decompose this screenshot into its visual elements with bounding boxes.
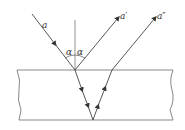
label-reflected: a′: [120, 11, 127, 21]
label-angle-right: α: [77, 47, 83, 57]
incident-ray: [32, 14, 75, 70]
label-angle-left: α: [66, 47, 72, 57]
refracted-ray-up: [93, 70, 112, 120]
refracted-ray-down: [75, 70, 93, 120]
glass-slab: [17, 70, 173, 120]
label-incident: a: [42, 20, 47, 30]
optics-diagram: a a′ a″ α α: [0, 0, 185, 130]
diagram: a a′ a″ α α: [0, 0, 185, 130]
reflected-ray: [75, 18, 118, 70]
emergent-ray: [112, 18, 155, 70]
label-emergent: a″: [157, 11, 166, 21]
